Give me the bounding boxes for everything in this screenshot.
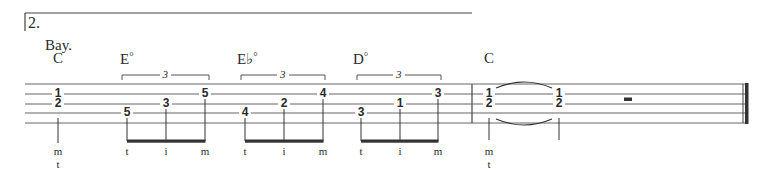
fingering-label: m: [431, 145, 445, 157]
chord-quality: °: [253, 50, 257, 62]
fingering-label: m: [316, 145, 330, 157]
chord-quality: °: [129, 50, 133, 62]
fret-number: 4: [239, 107, 251, 118]
chord-symbol: C: [53, 50, 63, 67]
chord-quality: °: [364, 50, 368, 62]
chord-symbol: D°: [353, 50, 368, 68]
fret-number: 2: [52, 98, 64, 109]
ending-number: 2.: [28, 14, 40, 32]
fingering-label: i: [159, 145, 173, 157]
fingering-label: t: [51, 158, 65, 170]
chord-root: C: [53, 50, 63, 66]
fingering-label: m: [482, 145, 496, 157]
fingering-label: t: [482, 158, 496, 170]
fret-number: 5: [121, 107, 133, 118]
tab-staff-graphics: [0, 0, 770, 186]
fingering-label: i: [393, 145, 407, 157]
tuplet-number: 3: [160, 69, 172, 80]
fingering-label: t: [354, 145, 368, 157]
fingering-label: i: [277, 145, 291, 157]
fret-number: 3: [160, 98, 172, 109]
chord-symbol: E♭°: [237, 50, 258, 68]
fret-number: 1: [394, 98, 406, 109]
fingering-label: m: [51, 145, 65, 157]
chord-symbol: E°: [120, 50, 134, 68]
fret-number: 3: [355, 107, 367, 118]
tuplet-number: 3: [393, 69, 405, 80]
chord-root: E♭: [237, 51, 253, 67]
half-rest: [624, 98, 632, 102]
fingering-label: m: [198, 145, 212, 157]
tab-staff-lines: [25, 84, 747, 123]
fret-number: 4: [317, 88, 329, 99]
fingering-label: t: [238, 145, 252, 157]
chord-root: D: [353, 51, 364, 67]
fret-number: 2: [278, 98, 290, 109]
fret-number: 2: [483, 98, 495, 109]
fret-number: 2: [553, 98, 565, 109]
tuplet-number: 3: [277, 69, 289, 80]
second-ending-bracket: [25, 13, 472, 31]
chord-symbol: C: [484, 50, 494, 67]
fingering-label: t: [120, 145, 134, 157]
chord-root: E: [120, 51, 129, 67]
chord-root: C: [484, 50, 494, 66]
fret-number: 5: [199, 88, 211, 99]
beams: [127, 140, 439, 143]
fret-number: 3: [432, 88, 444, 99]
